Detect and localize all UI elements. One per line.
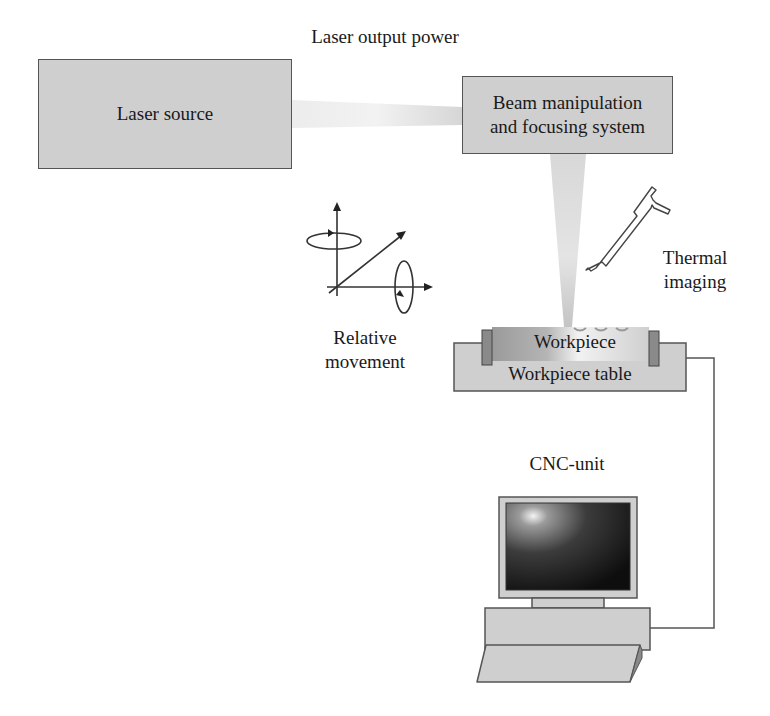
clamp-right bbox=[649, 331, 659, 366]
relative-movement-line2: movement bbox=[310, 350, 420, 374]
workpiece-label: Workpiece bbox=[520, 330, 630, 354]
thermal-imaging-line1: Thermal bbox=[650, 246, 740, 270]
cnc-computer-icon bbox=[477, 497, 650, 682]
laser-beam-horizontal bbox=[292, 100, 462, 128]
laser-source-box: Laser source bbox=[38, 59, 292, 169]
beam-system-label-line2: and focusing system bbox=[490, 115, 645, 139]
relative-movement-line1: Relative bbox=[310, 326, 420, 350]
motion-axes-icon bbox=[307, 202, 433, 313]
laser-source-label: Laser source bbox=[117, 102, 214, 126]
relative-movement-label: Relative movement bbox=[310, 326, 420, 374]
thermal-imaging-label: Thermal imaging bbox=[650, 246, 740, 294]
thermal-imaging-line2: imaging bbox=[650, 270, 740, 294]
cnc-cable bbox=[650, 358, 714, 628]
workpiece-table-label: Workpiece table bbox=[480, 362, 660, 386]
beam-system-box: Beam manipulation and focusing system bbox=[462, 76, 673, 154]
laser-output-power-label: Laser output power bbox=[300, 25, 470, 49]
beam-system-label-line1: Beam manipulation bbox=[493, 91, 642, 115]
cnc-unit-label: CNC-unit bbox=[512, 452, 622, 476]
laser-beam-focused bbox=[550, 154, 586, 327]
clamp-left bbox=[482, 330, 492, 365]
